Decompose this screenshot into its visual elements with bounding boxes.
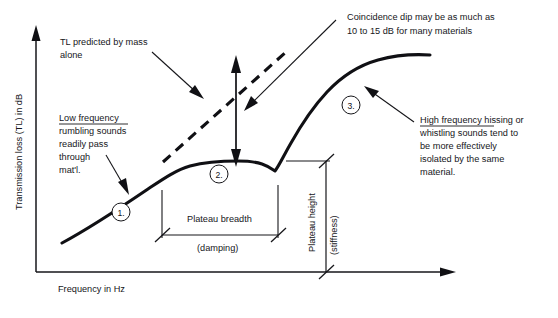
high-frequency-line5: material. bbox=[420, 167, 455, 177]
high-frequency-line1: High frequency hissing or bbox=[420, 115, 524, 125]
dip-arrow-head-down bbox=[231, 149, 241, 167]
low-frequency-emphasis: Low frequency bbox=[59, 113, 119, 123]
mass-law-line1: TL predicted by mass bbox=[60, 37, 148, 47]
low-frequency-line3: readily pass bbox=[59, 139, 108, 149]
dip-arrow-head-up bbox=[231, 55, 241, 73]
region-marker-1: 1. bbox=[112, 203, 130, 221]
region-marker-2: 2. bbox=[210, 165, 228, 183]
high-frequency-line1-tail: hissing or bbox=[482, 115, 524, 125]
tl-vs-frequency-diagram: Transmission loss (TL) in dB Frequency i… bbox=[0, 0, 558, 318]
low-frequency-leader bbox=[106, 155, 129, 195]
region-marker-3: 3. bbox=[342, 96, 360, 114]
dip-double-arrow bbox=[231, 55, 241, 167]
high-frequency-emphasis: High frequency bbox=[420, 115, 482, 125]
mass-law-annotation: TL predicted by mass alone bbox=[60, 37, 148, 60]
high-frequency-line4: isolated by the same bbox=[420, 154, 504, 164]
mass-law-leader-line bbox=[152, 52, 196, 92]
region-marker-1-label: 1. bbox=[117, 208, 124, 218]
coincidence-dip-line2: 10 to 15 dB for many materials bbox=[347, 26, 473, 36]
high-frequency-line2: whistling sounds tend to bbox=[419, 128, 518, 138]
coincidence-dip-line1: Coincidence dip may be as much as bbox=[347, 12, 495, 22]
plateau-breadth-dimension: Plateau breadth (damping) bbox=[155, 185, 286, 253]
low-frequency-leader-arrowhead bbox=[118, 178, 129, 195]
high-frequency-leader-arrowhead bbox=[364, 86, 379, 98]
plateau-breadth-sublabel: (damping) bbox=[197, 243, 238, 253]
high-frequency-leader-line bbox=[372, 92, 414, 122]
low-frequency-line2: rumbling sounds bbox=[59, 126, 127, 136]
mass-law-leader bbox=[152, 52, 204, 99]
coincidence-dip-leader-arrowhead bbox=[244, 96, 258, 111]
y-axis-label: Transmission loss (TL) in dB bbox=[14, 94, 24, 210]
plateau-height-label: Plateau height bbox=[307, 193, 317, 252]
plateau-height-dimension: Plateau height (stiffness) bbox=[286, 154, 339, 279]
low-frequency-line4: through bbox=[59, 152, 90, 162]
high-frequency-line3: be more effectively bbox=[420, 141, 497, 151]
mass-law-dashed-line bbox=[163, 52, 286, 162]
region-marker-2-label: 2. bbox=[215, 170, 222, 180]
x-axis-arrowhead bbox=[440, 268, 456, 277]
low-frequency-annotation: Low frequency rumbling sounds readily pa… bbox=[59, 113, 128, 175]
coincidence-dip-leader-line bbox=[252, 20, 336, 103]
plateau-height-sublabel: (stiffness) bbox=[329, 215, 339, 255]
high-frequency-leader bbox=[364, 86, 414, 122]
axis-group bbox=[32, 25, 457, 277]
figure-canvas: Transmission loss (TL) in dB Frequency i… bbox=[0, 0, 558, 318]
region-marker-3-label: 3. bbox=[347, 101, 354, 111]
low-frequency-line5: mat'l. bbox=[59, 165, 81, 175]
mass-law-line2: alone bbox=[60, 50, 82, 60]
plateau-breadth-label: Plateau breadth bbox=[187, 214, 252, 224]
coincidence-dip-annotation: Coincidence dip may be as much as 10 to … bbox=[347, 12, 495, 36]
high-frequency-annotation: High frequency hissing or whistling soun… bbox=[419, 115, 524, 177]
y-axis-arrowhead bbox=[32, 25, 41, 41]
x-axis-label: Frequency in Hz bbox=[58, 284, 125, 294]
